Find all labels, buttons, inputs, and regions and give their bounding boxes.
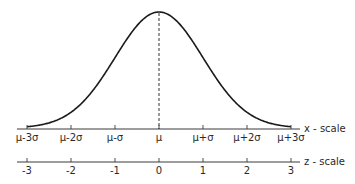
tick-label: 2 — [244, 165, 250, 176]
tick-label: 1 — [200, 165, 206, 176]
z-scale-label: z - scale — [304, 156, 345, 167]
tick-label: -2 — [66, 165, 76, 176]
x-scale-axis: μ-3σμ-2σμ-σμμ+σμ+2σμ+3σx - scale — [16, 123, 346, 143]
tick-label: μ-σ — [107, 132, 124, 143]
tick-label: μ+3σ — [277, 132, 305, 143]
normal-curve-plot: μ-3σμ-2σμ-σμμ+σμ+2σμ+3σx - scale -3-2-10… — [0, 0, 355, 184]
tick-label: μ+2σ — [233, 132, 261, 143]
normal-distribution-figure: μ-3σμ-2σμ-σμμ+σμ+2σμ+3σx - scale -3-2-10… — [0, 0, 355, 184]
tick-label: -1 — [110, 165, 120, 176]
tick-label: 3 — [288, 165, 294, 176]
tick-label: μ — [156, 132, 163, 143]
tick-label: μ-3σ — [16, 132, 39, 143]
tick-label: 0 — [156, 165, 162, 176]
tick-label: μ-2σ — [60, 132, 83, 143]
tick-label: -3 — [22, 165, 32, 176]
x-scale-label: x - scale — [304, 123, 346, 134]
tick-label: μ+σ — [192, 132, 214, 143]
z-scale-axis: -3-2-10123z - scale — [17, 156, 345, 176]
